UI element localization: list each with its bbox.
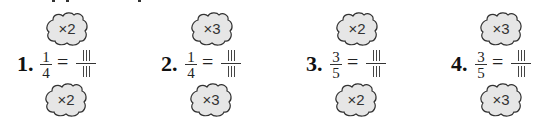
- given-fraction: 1 4: [40, 50, 52, 80]
- answer-denominator-blank[interactable]: [221, 65, 241, 78]
- numerator: 1: [40, 50, 52, 64]
- answer-denominator-blank[interactable]: [76, 65, 96, 78]
- answer-denominator-blank[interactable]: [511, 65, 531, 78]
- equals-sign: =: [202, 52, 213, 72]
- answer-numerator-blank[interactable]: [366, 49, 386, 62]
- denominator: 5: [330, 66, 342, 80]
- fraction-bar: [221, 63, 241, 64]
- answer-fraction: [76, 49, 96, 78]
- top-multiplier-text: ×2: [45, 11, 89, 47]
- multiplier-cloud-top: ×2: [335, 11, 379, 47]
- numerator: 1: [185, 50, 197, 64]
- equals-sign: =: [57, 52, 68, 72]
- answer-fraction: [221, 49, 241, 78]
- multiplier-cloud-top: ×3: [190, 11, 234, 47]
- numerator: 3: [330, 50, 342, 64]
- problem-3: ×2 3. 3 5 = ×2: [290, 0, 430, 127]
- problem-number: 4.: [451, 53, 468, 75]
- problem-4: ×3 4. 3 5 = ×3: [435, 0, 551, 127]
- multiplier-cloud-bottom: ×2: [44, 82, 88, 118]
- bottom-multiplier-text: ×2: [334, 82, 378, 118]
- multiplier-cloud-bottom: ×3: [479, 82, 523, 118]
- fraction-bar: [511, 63, 531, 64]
- problem-1: ×2 1. 1 4 = ×2: [0, 0, 140, 127]
- answer-numerator-blank[interactable]: [76, 49, 96, 62]
- problem-number: 1.: [17, 53, 34, 75]
- answer-fraction: [511, 49, 531, 78]
- given-fraction: 1 4: [185, 50, 197, 80]
- multiplier-cloud-bottom: ×3: [189, 82, 233, 118]
- top-multiplier-text: ×2: [335, 11, 379, 47]
- bottom-multiplier-text: ×3: [189, 82, 233, 118]
- given-fraction: 3 5: [330, 50, 342, 80]
- problem-2: ×3 2. 1 4 = ×3: [145, 0, 285, 127]
- equals-sign: =: [347, 52, 358, 72]
- given-fraction: 3 5: [475, 50, 487, 80]
- top-multiplier-text: ×3: [190, 11, 234, 47]
- problem-number: 3.: [306, 53, 323, 75]
- equals-sign: =: [492, 52, 503, 72]
- denominator: 4: [185, 66, 197, 80]
- bottom-multiplier-text: ×2: [44, 82, 88, 118]
- denominator: 5: [475, 66, 487, 80]
- answer-numerator-blank[interactable]: [511, 49, 531, 62]
- answer-denominator-blank[interactable]: [366, 65, 386, 78]
- problem-number: 2.: [161, 53, 178, 75]
- answer-numerator-blank[interactable]: [221, 49, 241, 62]
- multiplier-cloud-top: ×2: [45, 11, 89, 47]
- fraction-bar: [366, 63, 386, 64]
- multiplier-cloud-top: ×3: [479, 11, 523, 47]
- denominator: 4: [40, 66, 52, 80]
- multiplier-cloud-bottom: ×2: [334, 82, 378, 118]
- numerator: 3: [475, 50, 487, 64]
- fraction-bar: [76, 63, 96, 64]
- bottom-multiplier-text: ×3: [479, 82, 523, 118]
- top-multiplier-text: ×3: [479, 11, 523, 47]
- answer-fraction: [366, 49, 386, 78]
